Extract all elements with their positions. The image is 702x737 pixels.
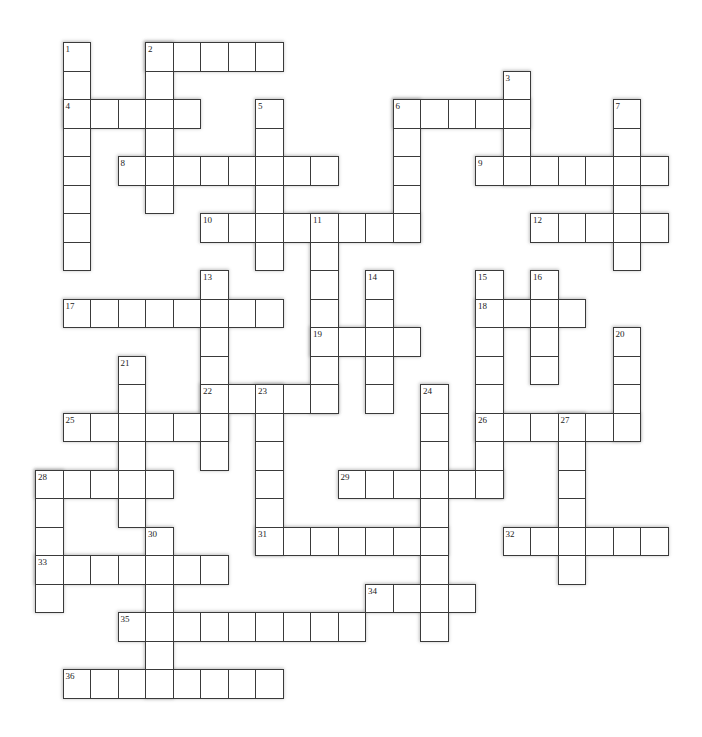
letter-input[interactable] (256, 129, 283, 157)
grid-cell-r11-c6[interactable] (200, 356, 229, 386)
grid-cell-r9-c5[interactable] (173, 299, 202, 329)
letter-input[interactable] (339, 214, 366, 242)
grid-cell-r20-c7[interactable] (228, 612, 257, 642)
letter-input[interactable] (174, 300, 201, 328)
letter-input[interactable] (256, 471, 283, 499)
letter-input[interactable] (559, 499, 586, 527)
grid-cell-r9-c17[interactable] (503, 299, 532, 329)
grid-cell-r11-c18[interactable] (530, 356, 559, 386)
grid-cell-r10-c18[interactable] (530, 327, 559, 357)
grid-cell-r20-c6[interactable] (200, 612, 229, 642)
grid-cell-r4-c3[interactable]: 8 (118, 156, 147, 186)
letter-input[interactable] (311, 528, 338, 556)
letter-input[interactable] (91, 556, 118, 584)
letter-input[interactable] (531, 328, 558, 356)
grid-cell-r0-c8[interactable] (255, 42, 284, 72)
letter-input[interactable] (119, 442, 146, 470)
letter-input[interactable] (531, 271, 558, 299)
grid-cell-r18-c14[interactable] (420, 555, 449, 585)
letter-input[interactable] (64, 43, 91, 71)
letter-input[interactable] (366, 385, 393, 413)
letter-input[interactable] (201, 385, 228, 413)
grid-cell-r11-c3[interactable]: 21 (118, 356, 147, 386)
grid-cell-r19-c0[interactable] (35, 584, 64, 614)
letter-input[interactable] (229, 670, 256, 698)
grid-cell-r19-c13[interactable] (393, 584, 422, 614)
grid-cell-r17-c4[interactable]: 30 (145, 527, 174, 557)
grid-cell-r10-c12[interactable] (365, 327, 394, 357)
letter-input[interactable] (449, 471, 476, 499)
letter-input[interactable] (36, 499, 63, 527)
grid-cell-r4-c10[interactable] (310, 156, 339, 186)
letter-input[interactable] (531, 528, 558, 556)
letter-input[interactable] (614, 357, 641, 385)
grid-cell-r17-c18[interactable] (530, 527, 559, 557)
grid-cell-r10-c21[interactable]: 20 (613, 327, 642, 357)
letter-input[interactable] (201, 357, 228, 385)
grid-cell-r4-c6[interactable] (200, 156, 229, 186)
letter-input[interactable] (91, 471, 118, 499)
grid-cell-r10-c13[interactable] (393, 327, 422, 357)
letter-input[interactable] (586, 528, 613, 556)
letter-input[interactable] (339, 471, 366, 499)
letter-input[interactable] (174, 43, 201, 71)
letter-input[interactable] (339, 328, 366, 356)
letter-input[interactable] (394, 214, 421, 242)
letter-input[interactable] (174, 100, 201, 128)
grid-cell-r6-c8[interactable] (255, 213, 284, 243)
letter-input[interactable] (366, 300, 393, 328)
grid-cell-r8-c18[interactable]: 16 (530, 270, 559, 300)
letter-input[interactable] (614, 214, 641, 242)
letter-input[interactable] (614, 129, 641, 157)
grid-cell-r18-c0[interactable]: 33 (35, 555, 64, 585)
grid-cell-r6-c10[interactable]: 11 (310, 213, 339, 243)
letter-input[interactable] (586, 214, 613, 242)
grid-cell-r10-c11[interactable] (338, 327, 367, 357)
grid-cell-r9-c1[interactable]: 17 (63, 299, 92, 329)
letter-input[interactable] (256, 414, 283, 442)
letter-input[interactable] (394, 471, 421, 499)
letter-input[interactable] (504, 100, 531, 128)
letter-input[interactable] (394, 328, 421, 356)
grid-cell-r0-c7[interactable] (228, 42, 257, 72)
letter-input[interactable] (64, 186, 91, 214)
letter-input[interactable] (476, 328, 503, 356)
grid-cell-r2-c3[interactable] (118, 99, 147, 129)
grid-cell-r4-c20[interactable] (585, 156, 614, 186)
grid-cell-r15-c14[interactable] (420, 470, 449, 500)
grid-cell-r2-c5[interactable] (173, 99, 202, 129)
letter-input[interactable] (119, 157, 146, 185)
grid-cell-r17-c22[interactable] (640, 527, 669, 557)
letter-input[interactable] (119, 670, 146, 698)
grid-cell-r15-c0[interactable]: 28 (35, 470, 64, 500)
letter-input[interactable] (256, 385, 283, 413)
grid-cell-r2-c17[interactable] (503, 99, 532, 129)
grid-cell-r13-c5[interactable] (173, 413, 202, 443)
letter-input[interactable] (641, 214, 668, 242)
grid-cell-r18-c4[interactable] (145, 555, 174, 585)
letter-input[interactable] (91, 414, 118, 442)
letter-input[interactable] (476, 100, 503, 128)
grid-cell-r18-c5[interactable] (173, 555, 202, 585)
grid-cell-r8-c6[interactable]: 13 (200, 270, 229, 300)
letter-input[interactable] (256, 214, 283, 242)
letter-input[interactable] (119, 300, 146, 328)
grid-cell-r9-c18[interactable] (530, 299, 559, 329)
letter-input[interactable] (504, 414, 531, 442)
letter-input[interactable] (64, 243, 91, 271)
grid-cell-r17-c12[interactable] (365, 527, 394, 557)
letter-input[interactable] (531, 157, 558, 185)
letter-input[interactable] (476, 357, 503, 385)
grid-cell-r17-c13[interactable] (393, 527, 422, 557)
letter-input[interactable] (311, 300, 338, 328)
letter-input[interactable] (614, 328, 641, 356)
letter-input[interactable] (366, 357, 393, 385)
grid-cell-r6-c12[interactable] (365, 213, 394, 243)
letter-input[interactable] (284, 613, 311, 641)
letter-input[interactable] (614, 528, 641, 556)
grid-cell-r6-c20[interactable] (585, 213, 614, 243)
grid-cell-r0-c4[interactable]: 2 (145, 42, 174, 72)
grid-cell-r16-c8[interactable] (255, 498, 284, 528)
grid-cell-r8-c12[interactable]: 14 (365, 270, 394, 300)
letter-input[interactable] (586, 414, 613, 442)
